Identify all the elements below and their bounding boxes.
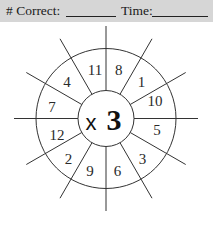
operator-symbol: x <box>86 110 97 135</box>
wheel-number: 11 <box>88 62 102 78</box>
multiplication-wheel: x 3 8 1 10 5 3 6 9 2 12 7 4 11 <box>0 0 213 228</box>
wheel-number: 2 <box>65 151 73 167</box>
multiplier-value: 3 <box>107 103 122 136</box>
wheel-number: 4 <box>63 74 71 90</box>
wheel-number: 1 <box>138 74 146 90</box>
wheel-number: 6 <box>114 163 122 179</box>
wheel-number: 9 <box>86 163 94 179</box>
wheel-number: 5 <box>153 122 161 138</box>
wheel-number: 3 <box>139 151 147 167</box>
wheel-number: 10 <box>148 93 163 109</box>
wheel-number: 8 <box>115 62 123 78</box>
wheel-number: 12 <box>50 127 65 143</box>
wheel-number: 7 <box>48 99 56 115</box>
